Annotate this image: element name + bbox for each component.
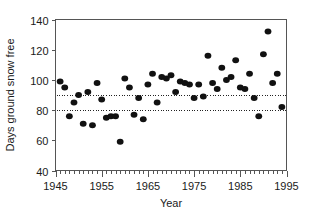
data-point bbox=[145, 81, 152, 87]
y-tick-label-40: 40 bbox=[36, 166, 48, 178]
data-point bbox=[242, 86, 249, 92]
data-point bbox=[140, 116, 147, 122]
y-tick-label-60: 60 bbox=[36, 135, 48, 147]
data-point bbox=[265, 29, 272, 35]
data-point bbox=[149, 71, 156, 77]
data-point bbox=[274, 71, 281, 77]
data-point bbox=[200, 94, 207, 100]
x-tick-label-1975: 1975 bbox=[182, 180, 206, 192]
data-point bbox=[71, 100, 78, 106]
data-point bbox=[214, 86, 221, 92]
y-tick-label-100: 100 bbox=[30, 75, 48, 87]
y-tick-label-140: 140 bbox=[30, 15, 48, 27]
scatter-plot-figure: 406080100120140 194519551965197519851995… bbox=[0, 0, 315, 213]
data-point bbox=[278, 104, 285, 110]
data-point bbox=[186, 81, 193, 87]
y-axis-group: 406080100120140 bbox=[30, 15, 55, 178]
x-tick-label-1985: 1985 bbox=[228, 180, 252, 192]
data-point bbox=[218, 65, 225, 71]
data-point bbox=[269, 80, 276, 86]
x-tick-label-1965: 1965 bbox=[136, 180, 160, 192]
data-point bbox=[168, 72, 175, 78]
data-point bbox=[126, 84, 133, 90]
data-point bbox=[89, 122, 96, 128]
data-point bbox=[255, 113, 262, 119]
y-tick-label-80: 80 bbox=[36, 105, 48, 117]
data-point bbox=[209, 80, 216, 86]
x-tick-label-1945: 1945 bbox=[43, 180, 67, 192]
data-point bbox=[66, 113, 73, 119]
data-point bbox=[205, 53, 212, 59]
data-point bbox=[260, 51, 267, 57]
data-point bbox=[246, 71, 253, 77]
data-point bbox=[61, 84, 68, 90]
data-point bbox=[232, 57, 239, 63]
data-point bbox=[195, 81, 202, 87]
data-point bbox=[80, 121, 87, 127]
y-axis-title: Days ground snow free bbox=[4, 38, 16, 151]
data-point bbox=[112, 113, 119, 119]
x-axis-title: Year bbox=[160, 197, 183, 209]
data-point bbox=[154, 100, 161, 106]
data-point bbox=[135, 95, 142, 101]
data-point bbox=[121, 75, 128, 81]
data-point bbox=[251, 95, 258, 101]
x-axis-group: 194519551965197519851995 bbox=[43, 171, 298, 192]
data-point bbox=[94, 80, 101, 86]
x-tick-label-1995: 1995 bbox=[274, 180, 298, 192]
data-point bbox=[191, 95, 198, 101]
x-tick-label-1955: 1955 bbox=[89, 180, 113, 192]
data-point bbox=[75, 92, 82, 98]
data-point bbox=[172, 89, 179, 95]
data-point bbox=[84, 89, 91, 95]
data-point bbox=[57, 78, 64, 84]
data-point bbox=[131, 112, 138, 118]
data-point bbox=[117, 139, 124, 145]
data-point bbox=[228, 74, 235, 80]
chart-canvas: 406080100120140 194519551965197519851995… bbox=[0, 0, 315, 213]
data-point bbox=[98, 97, 105, 103]
y-tick-label-120: 120 bbox=[30, 45, 48, 57]
